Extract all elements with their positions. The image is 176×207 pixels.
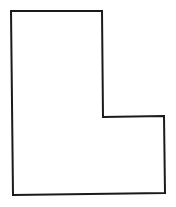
l-shaped-polygon <box>11 11 165 195</box>
diagram-canvas <box>0 0 176 207</box>
